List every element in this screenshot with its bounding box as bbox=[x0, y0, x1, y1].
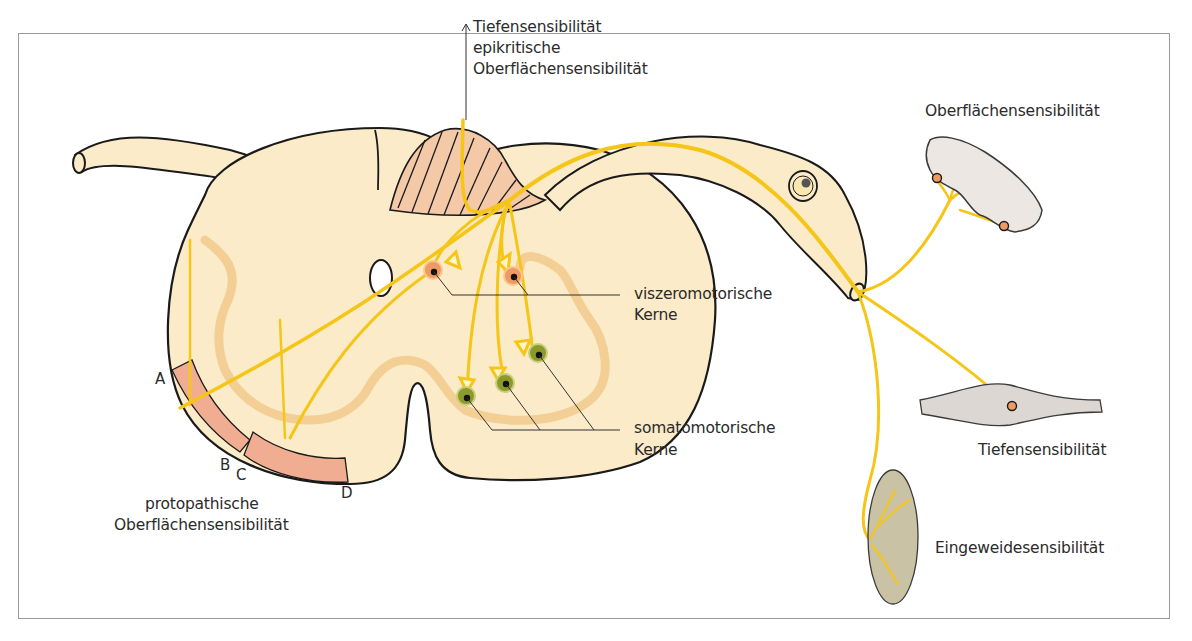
label-protopathic-line1: protopathische bbox=[145, 494, 259, 515]
viscera-sample bbox=[868, 470, 918, 604]
tract-letter-a: A bbox=[155, 370, 165, 388]
label-somatomotor-line1: somatomotorische bbox=[634, 418, 775, 439]
tract-letter-c: C bbox=[236, 466, 246, 484]
tract-letter-d: D bbox=[341, 484, 353, 502]
label-muscle-sensitivity: Tiefensensibilität bbox=[978, 440, 1106, 461]
muscle-sample bbox=[920, 384, 1102, 426]
label-top-arrow-line1: Tiefensensibilität bbox=[473, 17, 601, 38]
label-visceromotor-line2: Kerne bbox=[634, 305, 677, 326]
label-protopathic-line2: Oberflächensensibilität bbox=[114, 515, 289, 536]
tract-letter-b: B bbox=[220, 456, 230, 474]
label-top-arrow-line2: epikritische bbox=[473, 38, 560, 59]
label-top-arrow-line3: Oberflächensensibilität bbox=[473, 59, 648, 80]
label-visceromotor-line1: viszeromotorische bbox=[634, 284, 772, 305]
label-viscera-sensitivity: Eingeweidesensibilität bbox=[935, 538, 1104, 559]
label-skin-sensitivity: Oberflächensensibilität bbox=[925, 101, 1100, 122]
label-somatomotor-line2: Kerne bbox=[634, 440, 677, 461]
